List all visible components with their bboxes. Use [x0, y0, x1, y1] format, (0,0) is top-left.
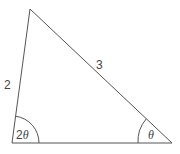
angle-label-bottom-left: 2θ: [16, 128, 29, 142]
angle-arc-bottom-right: [138, 119, 146, 143]
theta-symbol: θ: [23, 128, 29, 142]
side-label-hypotenuse: 3: [96, 58, 103, 72]
side-label-left: 2: [4, 78, 11, 92]
triangle-diagram: 2 3 2θ θ: [0, 0, 180, 154]
side-hypotenuse: [30, 9, 172, 143]
side-left: [12, 9, 30, 143]
angle-label-bottom-right: θ: [148, 128, 154, 142]
triangle: [12, 9, 172, 143]
